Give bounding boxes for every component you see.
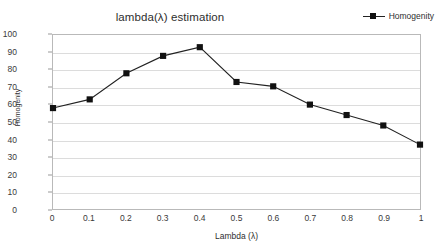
y-tick-mark (48, 139, 52, 140)
data-point-marker: 0.2, 78 (123, 70, 129, 76)
y-tick-label: 30 (0, 152, 17, 162)
x-tick-label: 0.8 (332, 213, 362, 223)
y-tick-label: 40 (0, 135, 17, 145)
x-tick-label: 0.1 (74, 213, 104, 223)
x-tick-label: 0.5 (222, 213, 252, 223)
y-tick-mark (48, 210, 52, 211)
y-tick-label: 10 (0, 187, 17, 197)
y-tick-label: 0 (0, 205, 17, 215)
y-tick-mark (48, 51, 52, 52)
data-point-marker: 0, 58 (50, 105, 56, 111)
y-tick-label: 90 (0, 47, 17, 57)
y-tick-mark (48, 104, 52, 105)
data-point-marker: 1, 37 (417, 142, 423, 148)
data-point-marker: 0.4, 93 (197, 44, 203, 50)
data-point-marker: 0.5, 73 (233, 79, 239, 85)
series-layer: 0, 580.1, 630.2, 780.3, 880.4, 930.5, 73… (53, 35, 420, 209)
y-tick-mark (48, 192, 52, 193)
x-axis-title: Lambda (λ) (52, 231, 421, 241)
y-tick-mark (48, 69, 52, 70)
legend-label-homogenity: Homogenity (389, 11, 434, 21)
y-tick-mark (48, 86, 52, 87)
data-point-marker: 0.3, 88 (160, 53, 166, 59)
legend-marker-icon (363, 12, 385, 21)
y-tick-mark (48, 157, 52, 158)
chart-container: lambda(λ) estimation Homogenity Homogeni… (0, 0, 442, 249)
data-point-marker: 0.1, 63 (87, 96, 93, 102)
y-tick-mark (48, 174, 52, 175)
series-line-homogenity (53, 47, 420, 144)
data-point-marker: 0.9, 48 (380, 122, 386, 128)
y-tick-label: 60 (0, 99, 17, 109)
y-tick-label: 100 (0, 29, 17, 39)
x-tick-label: 1 (406, 213, 436, 223)
data-point-marker: 0.7, 60 (307, 102, 313, 108)
x-tick-label: 0.2 (111, 213, 141, 223)
x-tick-label: 0.9 (369, 213, 399, 223)
y-tick-label: 80 (0, 64, 17, 74)
y-tick-label: 20 (0, 170, 17, 180)
x-tick-label: 0.7 (295, 213, 325, 223)
chart-legend: Homogenity (363, 11, 434, 21)
x-tick-label: 0 (37, 213, 67, 223)
x-tick-label: 0.6 (258, 213, 288, 223)
y-tick-label: 70 (0, 82, 17, 92)
chart-title: lambda(λ) estimation (0, 11, 340, 23)
y-tick-label: 50 (0, 117, 17, 127)
y-tick-mark (48, 122, 52, 123)
x-tick-label: 0.3 (148, 213, 178, 223)
data-point-marker: 0.6, 70.5 (270, 83, 276, 89)
data-point-marker: 0.8, 54 (344, 112, 350, 118)
plot-area: 0, 580.1, 630.2, 780.3, 880.4, 930.5, 73… (52, 34, 421, 210)
x-tick-label: 0.4 (185, 213, 215, 223)
y-tick-mark (48, 34, 52, 35)
